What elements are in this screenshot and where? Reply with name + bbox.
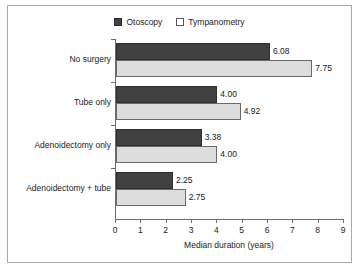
x-axis-tick-label: 9 — [341, 225, 346, 235]
x-axis-tick-label: 6 — [265, 225, 270, 235]
legend-swatch-open-square-icon — [176, 18, 184, 26]
bar-tympanometry[interactable] — [116, 146, 217, 163]
bar-value-label: 2.75 — [189, 189, 206, 206]
x-axis-tick-mark — [242, 219, 243, 223]
legend-label-otoscopy: Otoscopy — [126, 18, 162, 27]
bar-otoscopy[interactable] — [116, 86, 217, 103]
bar-tympanometry[interactable] — [116, 189, 186, 206]
chart-legend: Otoscopy Tympanometry — [8, 18, 351, 27]
category-label: Tube only — [74, 97, 111, 107]
x-axis-tick-label: 5 — [239, 225, 244, 235]
bar-tympanometry[interactable] — [116, 103, 241, 120]
x-axis-tick-label: 8 — [315, 225, 320, 235]
bar-value-label: 4.00 — [220, 146, 237, 163]
x-axis-tick-mark — [216, 219, 217, 223]
category-label: Adenoidectomy + tube — [26, 183, 111, 193]
chart-figure: Otoscopy Tympanometry No surgery Tube on… — [7, 5, 352, 263]
bar-otoscopy[interactable] — [116, 129, 202, 146]
legend-entry-otoscopy[interactable]: Otoscopy — [114, 18, 162, 27]
bar-value-label: 7.75 — [315, 60, 332, 77]
x-axis-tick-mark — [166, 219, 167, 223]
bar-value-label: 4.00 — [220, 86, 237, 103]
plot-area: 6.08 7.75 4.00 4.92 3.38 4.00 2.25 2.75 — [115, 39, 343, 219]
x-axis-tick-label: 7 — [290, 225, 295, 235]
bar-value-label: 2.25 — [176, 172, 193, 189]
x-axis-line — [115, 219, 343, 220]
x-axis-tick-mark — [191, 219, 192, 223]
bar-tympanometry[interactable] — [116, 60, 312, 77]
bar-group: 3.38 4.00 — [115, 125, 343, 168]
x-axis-tick-label: 1 — [138, 225, 143, 235]
bar-otoscopy[interactable] — [116, 172, 173, 189]
category-label: Adenoidectomy only — [34, 140, 111, 150]
x-axis-tick-label: 4 — [214, 225, 219, 235]
category-tick — [111, 39, 115, 40]
x-axis-title: Median duration (years) — [115, 240, 343, 250]
x-axis-tick-mark — [267, 219, 268, 223]
bar-group: 4.00 4.92 — [115, 82, 343, 125]
bar-value-label: 4.92 — [244, 103, 261, 120]
bar-otoscopy[interactable] — [116, 43, 270, 60]
bar-value-label: 3.38 — [205, 129, 222, 146]
x-axis-tick-mark — [292, 219, 293, 223]
x-axis-tick-label: 0 — [113, 225, 118, 235]
category-label: No surgery — [69, 54, 111, 64]
legend-entry-tympanometry[interactable]: Tympanometry — [176, 18, 244, 27]
x-axis-tick-mark — [115, 219, 116, 223]
x-axis-tick-label: 3 — [189, 225, 194, 235]
category-axis-labels: No surgery Tube only Adenoidectomy only … — [16, 39, 111, 219]
x-axis-tick-mark — [318, 219, 319, 223]
legend-swatch-filled-square-icon — [114, 18, 122, 26]
bar-group: 6.08 7.75 — [115, 39, 343, 82]
x-axis-tick-label: 2 — [163, 225, 168, 235]
legend-label-tympanometry: Tympanometry — [188, 18, 244, 27]
bar-value-label: 6.08 — [273, 43, 290, 60]
x-axis-tick-mark — [343, 219, 344, 223]
x-axis-tick-mark — [140, 219, 141, 223]
bar-group: 2.25 2.75 — [115, 168, 343, 211]
